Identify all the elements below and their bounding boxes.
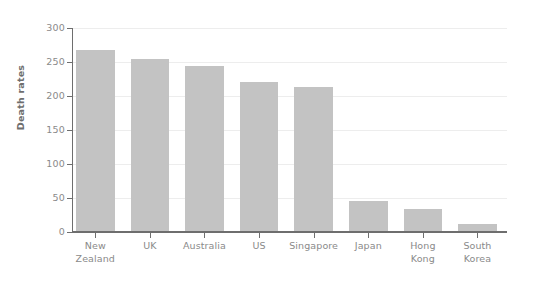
y-tick-label: 300 — [25, 23, 65, 33]
plot-area — [73, 28, 507, 232]
y-tick-mark — [67, 232, 73, 233]
y-tick-mark — [67, 198, 73, 199]
x-tick-mark — [314, 233, 315, 238]
x-tick-label: SouthKorea — [437, 240, 517, 265]
x-tick-mark — [368, 233, 369, 238]
bar — [76, 50, 115, 232]
bar-chart: 050100150200250300 NewZealandUKAustralia… — [0, 0, 534, 284]
bar — [185, 66, 224, 232]
bar — [131, 59, 170, 232]
x-tick-mark — [259, 233, 260, 238]
gridline — [73, 28, 507, 29]
x-tick-label-line: South — [437, 240, 517, 253]
bar — [349, 201, 388, 232]
y-tick-mark — [67, 62, 73, 63]
bar — [404, 209, 443, 232]
y-tick-mark — [67, 164, 73, 165]
x-tick-mark — [423, 233, 424, 238]
x-tick-mark — [477, 233, 478, 238]
x-tick-label-line: Zealand — [55, 253, 135, 266]
bar — [240, 82, 279, 232]
y-tick-label: 200 — [25, 91, 65, 101]
y-axis-title: Death rates — [15, 38, 26, 158]
bar — [294, 87, 333, 232]
x-tick-label-line: Korea — [437, 253, 517, 266]
y-tick-label: 100 — [25, 159, 65, 169]
y-tick-mark — [67, 130, 73, 131]
y-tick-mark — [67, 96, 73, 97]
y-tick-label: 250 — [25, 57, 65, 67]
y-tick-mark — [67, 28, 73, 29]
y-tick-label: 50 — [25, 193, 65, 203]
x-axis-line — [72, 231, 507, 233]
x-tick-mark — [150, 233, 151, 238]
x-tick-mark — [95, 233, 96, 238]
x-tick-mark — [204, 233, 205, 238]
y-tick-label: 0 — [25, 227, 65, 237]
y-tick-label: 150 — [25, 125, 65, 135]
